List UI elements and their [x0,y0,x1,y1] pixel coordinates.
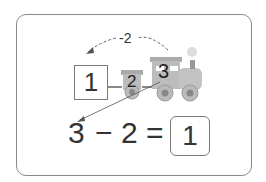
eq-equals: = [146,118,164,148]
start-box: 1 [74,65,108,100]
answer-box: 1 [170,116,210,156]
engine-number: 3 [158,60,169,83]
eq-operator: − [95,118,113,148]
car-number: 2 [127,72,136,92]
eq-subtrahend: 2 [121,118,138,148]
eq-minuend: 3 [68,118,85,148]
arc-label: -2 [119,30,131,46]
arrow-head-icon [86,47,94,54]
